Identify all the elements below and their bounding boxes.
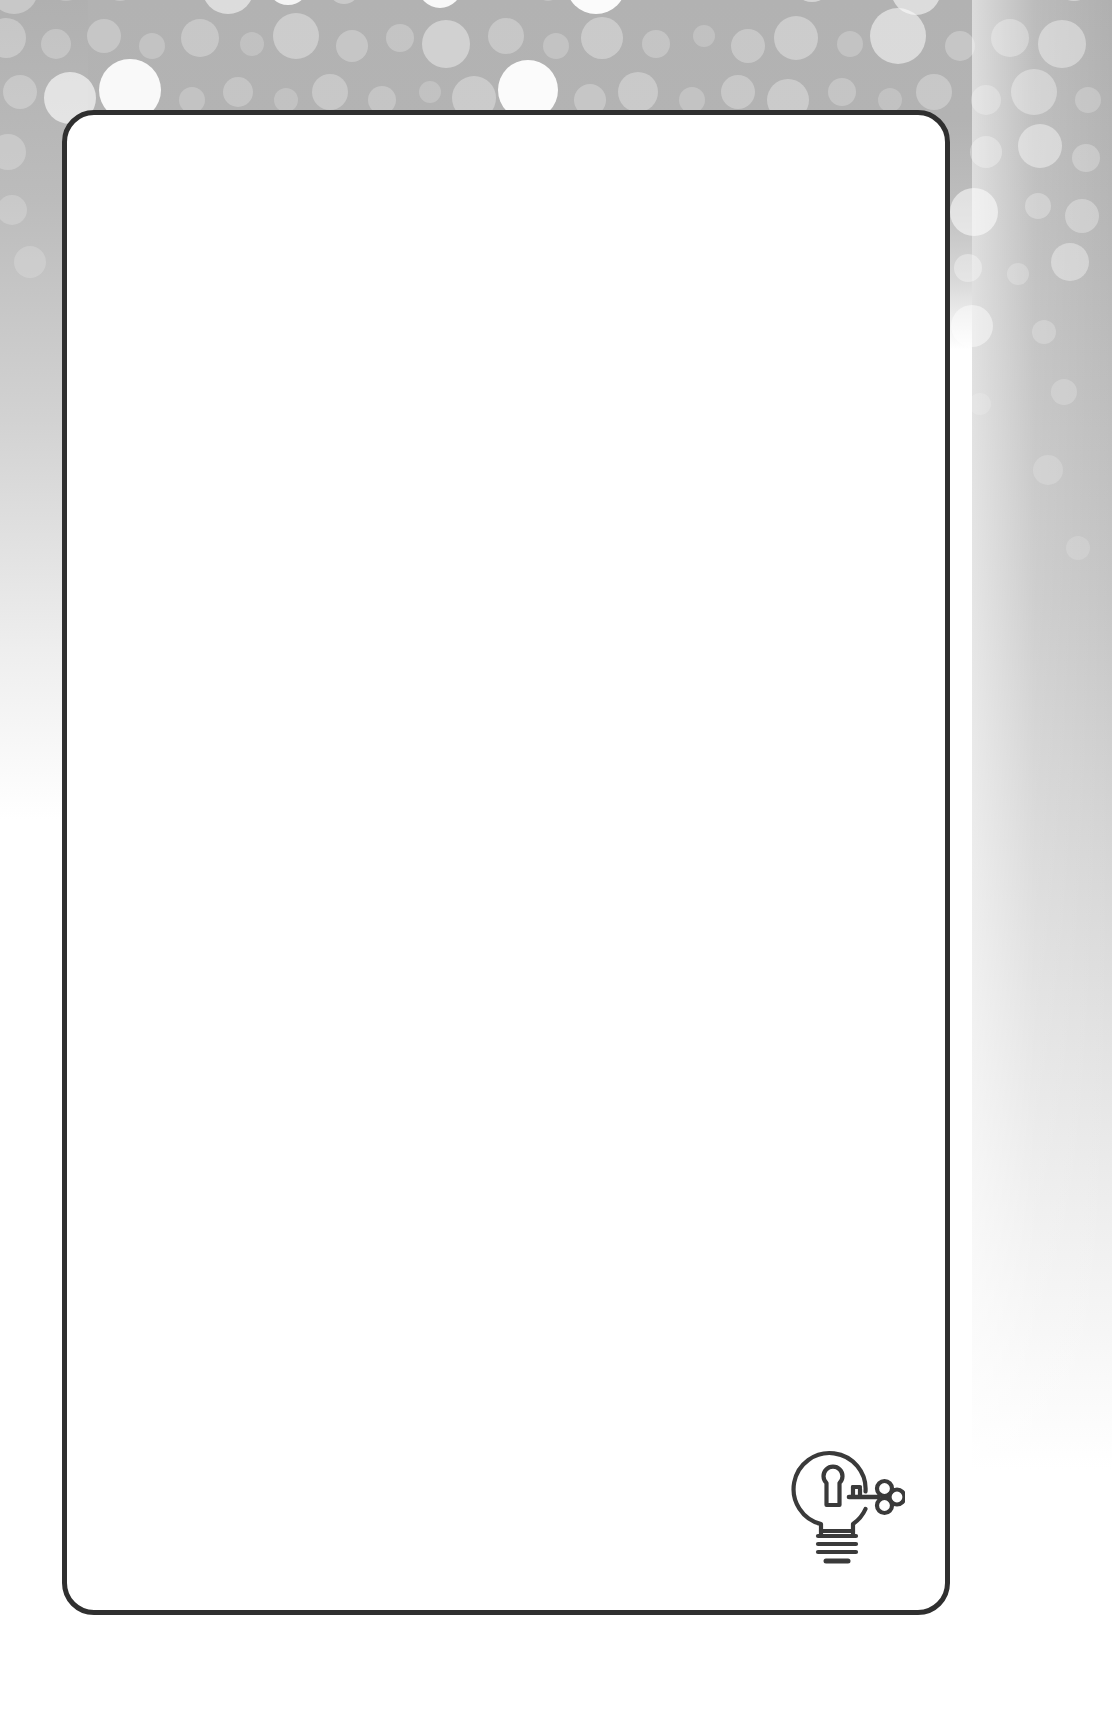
bokeh-dot [240,32,264,56]
bokeh-dot [566,0,626,14]
card-content-area [67,115,945,1610]
bokeh-dot [181,19,219,57]
bokeh-dot [312,74,348,110]
right-gradient-softening [972,0,1112,1500]
bokeh-dot [386,24,414,52]
bokeh-dot [419,81,441,103]
bokeh-dot [971,85,1001,115]
bokeh-dot [731,29,765,63]
bokeh-dot [991,19,1029,57]
bokeh-dot [274,88,298,112]
bokeh-dot [223,77,253,107]
bokeh-dot [951,305,993,347]
bokeh-dot [870,8,926,64]
bokeh-dot [1053,0,1095,1]
bokeh-dot [721,75,755,109]
bokeh-dot [954,254,982,282]
bokeh-dot [1018,124,1062,168]
certificate-card [62,110,950,1615]
bokeh-dot [0,134,26,170]
bokeh-dot [1038,20,1086,68]
bokeh-dot [202,0,254,14]
bokeh-dot [47,0,85,1]
bokeh-dot [1051,379,1077,405]
bokeh-dot [0,0,38,14]
lightbulb-keyhole-key-icon [777,1418,905,1568]
bokeh-dot [87,19,121,53]
bokeh-dot [418,0,462,8]
bokeh-dot [618,72,658,112]
certificate-page [0,0,1112,1724]
bokeh-dot [336,30,368,62]
bokeh-dot [1065,199,1099,233]
bokeh-dot [891,0,941,15]
bokeh-dot [0,18,26,58]
bokeh-dot [1032,320,1056,344]
bokeh-dot [1033,455,1063,485]
right-gradient-band [972,0,1112,1500]
bokeh-dot [273,13,319,59]
bokeh-dot [878,88,902,112]
bokeh-dot [328,0,360,4]
bokeh-dot [581,17,623,59]
bokeh-dot [41,29,71,59]
bokeh-dot [792,0,832,2]
bokeh-dot [642,30,670,58]
bokeh-dot [537,0,559,1]
bokeh-dot [1011,69,1057,115]
bokeh-dot [1072,144,1100,172]
bokeh-dot [1007,263,1029,285]
bokeh-dot [828,78,856,106]
bokeh-dot [139,33,165,59]
bottom-white-wash [0,1604,1112,1724]
bokeh-dot [950,188,998,236]
bokeh-dot [1075,87,1101,113]
bokeh-dot [1051,243,1089,281]
bokeh-dot [1066,536,1090,560]
bokeh-dot [488,18,524,54]
bokeh-dot [774,16,818,60]
bokeh-dot [970,136,1002,168]
bokeh-dot [14,246,46,278]
bokeh-dot [1025,193,1051,219]
bokeh-dot [916,74,952,110]
bokeh-dot [543,33,569,59]
bokeh-dot [422,20,470,68]
bokeh-dot [3,75,37,109]
bokeh-dot [105,0,135,1]
bokeh-dot [837,31,863,57]
bokeh-dot [969,393,991,415]
bokeh-dot [267,0,309,5]
bokeh-dot [0,195,27,225]
bokeh-dot [693,25,715,47]
bokeh-dot [945,31,975,61]
